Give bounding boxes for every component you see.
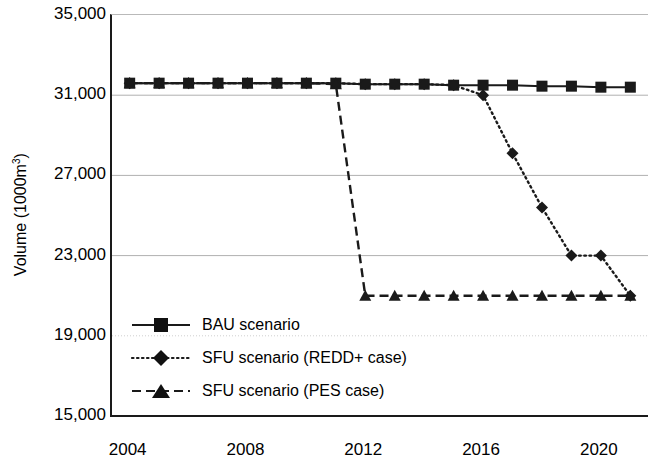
- data-point-diamond: [477, 89, 489, 101]
- x-axis-tick-label: 2020: [580, 440, 618, 460]
- data-point-square: [566, 81, 577, 92]
- x-axis-tick-label: 2012: [344, 440, 382, 460]
- data-point-square: [536, 81, 547, 92]
- y-axis-tick-label: 15,000: [20, 405, 106, 425]
- data-point-diamond: [507, 147, 519, 159]
- legend-item-pes: SFU scenario (PES case): [130, 374, 407, 407]
- series-layer: [124, 77, 637, 302]
- y-axis-tick-label: 35,000: [20, 4, 106, 24]
- series-line: [130, 83, 631, 296]
- y-axis-tick-label: 23,000: [20, 245, 106, 265]
- dashed-triangle-key-icon: [130, 381, 192, 401]
- data-point-diamond: [565, 250, 577, 262]
- legend: BAU scenario SFU scenario (REDD+ case) S…: [130, 308, 407, 407]
- series-line: [130, 83, 631, 296]
- y-axis-tick-label: 27,000: [20, 164, 106, 184]
- legend-label-pes: SFU scenario (PES case): [202, 382, 384, 400]
- x-axis-tick-label: 2004: [109, 440, 147, 460]
- legend-label-bau: BAU scenario: [202, 316, 300, 334]
- solid-square-key-icon: [130, 315, 192, 335]
- legend-label-redd: SFU scenario (REDD+ case): [202, 349, 407, 367]
- y-axis-tick-label: 31,000: [20, 84, 106, 104]
- dotted-diamond-key-icon: [130, 348, 192, 368]
- line-chart: Volume (1000m3) 35,00031,00027,00023,000…: [0, 0, 654, 471]
- data-point-square: [507, 80, 518, 91]
- x-axis-tick-label: 2008: [227, 440, 265, 460]
- y-axis-tick-labels: 35,00031,00027,00023,00019,00015,000: [14, 0, 106, 471]
- legend-item-redd: SFU scenario (REDD+ case): [130, 341, 407, 374]
- data-point-diamond: [536, 201, 548, 213]
- series-diamond: [124, 77, 637, 302]
- legend-item-bau: BAU scenario: [130, 308, 407, 341]
- series-triangle: [124, 77, 637, 301]
- data-point-square: [478, 80, 489, 91]
- y-axis-tick-label: 19,000: [20, 325, 106, 345]
- data-point-square: [595, 82, 606, 93]
- data-point-square: [625, 82, 636, 93]
- x-axis-tick-label: 2016: [462, 440, 500, 460]
